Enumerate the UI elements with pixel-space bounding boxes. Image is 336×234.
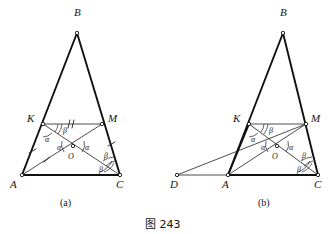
label-k-a: K [26,112,35,124]
panel-caption-a: (a) [60,197,71,209]
segment-am-b [228,124,306,175]
angle-beta-kmo-b: β [268,126,273,135]
angle-beta-mco-a: β [103,151,108,160]
figure-canvas: B K M A C O α α α β β β (a) [0,0,336,234]
label-d-b: D [169,178,178,190]
label-b-b: B [280,6,287,18]
vertex-m-a [100,122,103,125]
segment-dm-b [177,124,306,175]
angle-beta-kmo-a: β [62,126,67,135]
vertex-m-b [304,122,307,125]
vertex-o-b [275,144,278,147]
label-c-a: C [116,178,124,190]
angle-beta-mco-b: β [301,151,306,160]
segment-kc-a [43,124,120,175]
vertex-c-a [118,173,121,176]
vertex-a-b [226,173,229,176]
label-o-a: O [68,152,74,161]
angle-beta-oca-b: β [296,165,301,174]
angle-alpha-kao-b: α [251,135,256,144]
angle-alpha-moc-a: α [85,143,90,152]
vertex-b-b [281,31,284,34]
label-b-a: B [74,6,81,18]
label-o-b: O [272,152,278,161]
vertex-d-b [175,173,178,176]
label-a-b: A [221,178,229,190]
label-a-a: A [9,178,17,190]
vertex-c-b [316,173,319,176]
vertex-k-b [247,122,250,125]
segment-ak-bold-b [228,124,249,175]
angle-beta-oca-a: β [98,165,103,174]
label-m-b: M [310,112,321,124]
panel-caption-b: (b) [258,197,270,209]
angle-alpha-kao-a: α [45,135,50,144]
panel-b: B K M D A C O α α α β β β (b) [169,6,322,209]
label-m-a: M [107,112,118,124]
vertex-o-a [71,144,74,147]
label-c-b: C [314,178,322,190]
label-k-b: K [232,112,241,124]
vertex-b-a [75,31,78,34]
segment-am-a [22,124,102,175]
angle-alpha-moc-b: α [289,143,294,152]
vertex-a-a [20,173,23,176]
vertex-k-a [41,122,44,125]
panel-a: B K M A C O α α α β β β (a) [9,6,124,209]
figure-caption: 图 243 [145,218,181,231]
